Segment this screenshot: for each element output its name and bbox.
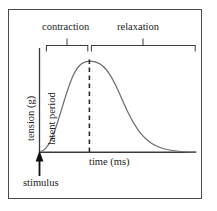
figure-container: contraction relaxation tension (g) laten…: [0, 0, 217, 211]
stimulus-arrow-icon: [36, 151, 44, 177]
y-axis-label: tension (g): [26, 96, 37, 141]
x-axis-label: time (ms): [89, 157, 130, 168]
contraction-label: contraction: [42, 22, 89, 33]
contraction-bracket: [46, 39, 88, 52]
stimulus-label: stimulus: [23, 178, 59, 189]
relaxation-label: relaxation: [117, 22, 159, 33]
latent-period-label: latent period: [47, 92, 58, 145]
relaxation-bracket: [91, 39, 196, 52]
tension-curve: [40, 61, 197, 152]
